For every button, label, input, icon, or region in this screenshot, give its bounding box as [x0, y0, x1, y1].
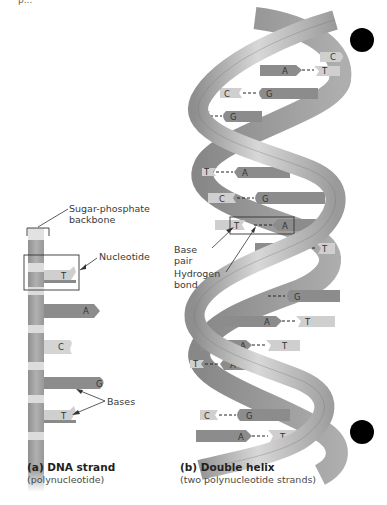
- svg-text:G: G: [246, 411, 253, 421]
- svg-text:C: C: [224, 89, 230, 99]
- label-nucleotide: Nucleotide: [99, 251, 150, 262]
- base-g: G: [96, 379, 103, 389]
- svg-text:T: T: [203, 167, 210, 177]
- double-helix-panel: C A T C G C G T A C: [190, 18, 343, 475]
- base-t: T: [60, 271, 67, 281]
- svg-text:A: A: [264, 317, 270, 327]
- svg-text:G: G: [294, 292, 301, 302]
- label-backbone: backbone: [69, 214, 115, 225]
- svg-text:T: T: [233, 221, 240, 231]
- svg-text:C: C: [330, 52, 336, 62]
- svg-text:C: C: [219, 194, 225, 204]
- panel-a-title: (a) DNA strand: [27, 461, 115, 473]
- panel-a-subtitle: (polynucleotide): [27, 474, 104, 485]
- svg-text:A: A: [282, 221, 288, 231]
- label-sugar-phosphate: Sugar-phosphate: [69, 203, 150, 214]
- svg-text:T: T: [321, 244, 328, 254]
- marker-dot-top: [350, 28, 374, 52]
- svg-text:C: C: [204, 411, 210, 421]
- svg-text:A: A: [238, 432, 244, 442]
- label-hydrogen: Hydrogen: [174, 268, 220, 279]
- base-t: T: [60, 411, 67, 421]
- base-c: C: [58, 342, 64, 352]
- svg-text:T: T: [304, 317, 311, 327]
- svg-text:T: T: [321, 66, 328, 76]
- svg-text:A: A: [242, 168, 248, 178]
- svg-text:G: G: [230, 112, 237, 122]
- base-a: A: [83, 306, 89, 316]
- panel-b-title: (b) Double helix: [180, 461, 275, 473]
- svg-text:T: T: [281, 341, 288, 351]
- dna-strand-panel: T A C G T: [24, 209, 105, 492]
- marker-dot-bottom: [350, 420, 374, 444]
- label-base: Base: [174, 244, 197, 255]
- svg-text:T: T: [192, 359, 199, 369]
- label-pair: pair: [174, 255, 192, 266]
- svg-text:G: G: [262, 194, 269, 204]
- panel-b-subtitle: (two polynucleotide strands): [180, 474, 316, 485]
- label-bond: bond: [174, 279, 198, 290]
- svg-text:G: G: [266, 89, 273, 99]
- svg-text:A: A: [282, 66, 288, 76]
- label-bases: Bases: [107, 396, 135, 407]
